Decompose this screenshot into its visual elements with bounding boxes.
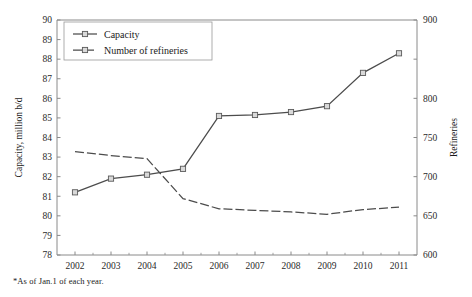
y-axis-title-left: Capacity, million b/d [14,97,24,177]
y-tick-label-right: 650 [423,211,438,221]
y-tick-label-right: 800 [423,94,438,104]
series-line-1 [75,53,399,192]
data-point-marker [252,112,257,117]
y-tick-label-left: 87 [43,74,53,84]
y-tick-label-right: 600 [423,250,438,260]
y-tick-label-left: 80 [43,211,53,221]
chart-footnote: *As of Jan.1 of each year. [13,276,104,286]
x-tick-label: 2005 [174,261,193,271]
y-tick-label-right: 750 [423,133,438,143]
data-point-marker [288,109,293,114]
y-tick-label-left: 89 [43,35,53,45]
x-tick-label: 2010 [354,261,373,271]
y-tick-label-left: 83 [43,152,53,162]
x-tick-label: 2006 [210,261,229,271]
y-tick-label-right: 900 [423,15,438,25]
line-chart: 7879808182838485868788899060065070075080… [0,0,472,297]
legend-sample-marker-1 [82,31,87,36]
series-line-2 [75,152,399,215]
legend-sample-marker-2 [82,47,87,52]
y-tick-label-left: 81 [43,192,53,202]
y-tick-label-left: 90 [43,15,53,25]
x-tick-label: 2002 [66,261,85,271]
x-tick-label: 2009 [318,261,337,271]
data-point-marker [180,166,185,171]
x-tick-label: 2004 [138,261,157,271]
y-tick-label-left: 82 [43,172,53,182]
x-tick-label: 2007 [246,261,265,271]
data-point-marker [144,172,149,177]
x-tick-label: 2003 [102,261,121,271]
chart-container: 7879808182838485868788899060065070075080… [0,0,472,297]
x-tick-label: 2011 [390,261,409,271]
y-tick-label-left: 79 [43,231,53,241]
x-tick-label: 2008 [282,261,301,271]
y-axis-title-right: Refineries [449,118,459,157]
legend-label-1: Capacity [104,29,140,40]
data-point-marker [396,51,401,56]
data-point-marker [360,70,365,75]
data-point-marker [72,190,77,195]
y-tick-label-right: 700 [423,172,438,182]
data-point-marker [324,104,329,109]
data-point-marker [108,176,113,181]
y-tick-label-left: 86 [43,94,53,104]
y-tick-label-left: 85 [43,113,53,123]
y-tick-label-left: 78 [43,250,53,260]
y-tick-label-left: 88 [43,54,53,64]
y-tick-label-left: 84 [43,133,53,143]
legend-label-2: Number of refineries [104,45,188,56]
data-point-marker [216,113,221,118]
